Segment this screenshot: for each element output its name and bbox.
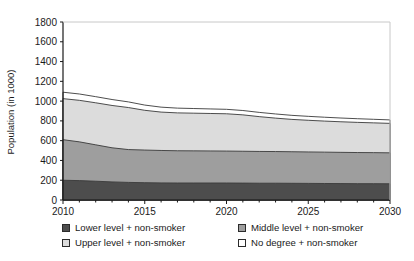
area-band-lower [63,180,390,200]
stacked-area-chart: Population (in 1000) 0200400600800100012… [0,0,414,261]
y-tick-label: 800 [40,115,57,126]
y-tick-label: 0 [51,195,57,206]
x-axis: 20102015202020252030 [52,200,402,217]
x-tick-label: 2020 [215,206,238,217]
legend-item-lower-level[interactable]: Lower level + non-smoker [62,222,238,233]
legend-item-upper-level[interactable]: Upper level + non-smoker [62,237,238,248]
chart-legend: Lower level + non-smoker Middle level + … [0,222,414,248]
legend-label: Middle level + non-smoker [251,222,363,233]
no-degree-swatch-icon [238,239,246,247]
legend-label: Lower level + non-smoker [75,222,185,233]
x-tick-label: 2015 [134,206,157,217]
y-tick-label: 200 [40,175,57,186]
y-tick-label: 1000 [35,96,58,107]
legend-label: No degree + non-smoker [251,237,357,248]
y-tick-label: 1400 [35,56,58,67]
legend-item-no-degree[interactable]: No degree + non-smoker [238,237,414,248]
x-tick-label: 2010 [52,206,75,217]
y-axis-label: Population (in 1000) [5,69,16,154]
area-series-group [63,92,390,200]
y-tick-label: 400 [40,155,57,166]
y-tick-label: 1800 [35,17,58,28]
lower-swatch-icon [62,224,70,232]
x-tick-label: 2025 [297,206,320,217]
legend-label: Upper level + non-smoker [75,237,185,248]
y-axis: 020040060080010001200140016001800 [35,17,63,206]
legend-item-middle-level[interactable]: Middle level + non-smoker [238,222,414,233]
y-tick-label: 600 [40,135,57,146]
y-tick-label: 1600 [35,36,58,47]
upper-swatch-icon [62,239,70,247]
x-tick-label: 2030 [379,206,402,217]
y-tick-label: 1200 [35,76,58,87]
middle-swatch-icon [238,224,246,232]
